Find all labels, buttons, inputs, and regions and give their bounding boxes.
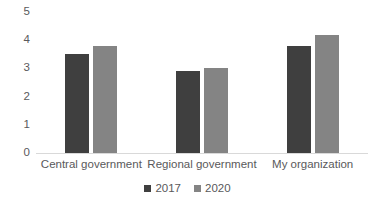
bar-2020-central-government — [93, 46, 117, 153]
legend-swatch-2020 — [194, 185, 201, 192]
bars-layer — [0, 0, 375, 153]
bar-2017-my-organization — [287, 46, 311, 153]
bar-chart: 012345 Central governmentRegional govern… — [0, 0, 375, 207]
chart-legend: 20172020 — [0, 183, 375, 195]
bar-2017-regional-government — [176, 71, 200, 153]
x-axis-line — [36, 153, 368, 154]
legend-item-label: 2020 — [205, 183, 231, 195]
legend-item-label: 2017 — [155, 183, 181, 195]
bar-2020-regional-government — [204, 68, 228, 153]
x-axis-category-label: My organization — [272, 156, 353, 172]
bar-2017-central-government — [65, 54, 89, 153]
x-axis-category-label: Central government — [41, 156, 142, 172]
bar-2020-my-organization — [315, 35, 339, 153]
legend-swatch-2017 — [144, 185, 151, 192]
legend-item-2017[interactable]: 2017 — [144, 183, 181, 195]
x-axis-category-labels: Central governmentRegional governmentMy … — [0, 156, 375, 174]
x-axis-category-label: Regional government — [147, 156, 256, 172]
legend-item-2020[interactable]: 2020 — [194, 183, 231, 195]
